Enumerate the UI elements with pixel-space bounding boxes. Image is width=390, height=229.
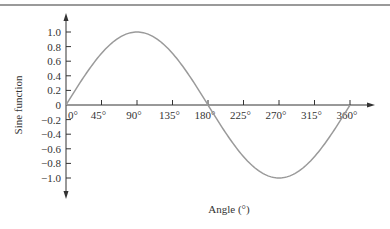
y-tick-label: 0.6	[47, 55, 61, 67]
y-tick-label: −0.6	[41, 143, 61, 155]
x-tick-label: 270°	[266, 109, 287, 121]
x-tick-label: 0°	[68, 109, 78, 121]
x-tick-label: 315°	[301, 109, 322, 121]
y-axis-up-arrow-icon	[64, 13, 69, 21]
y-tick-label: −0.2	[41, 114, 61, 126]
y-axis-down-arrow-icon	[64, 191, 69, 199]
x-axis-right-arrow-icon	[367, 103, 375, 108]
y-tick-label: 0.4	[47, 70, 61, 82]
y-tick-label: 1.0	[47, 26, 61, 38]
y-axis-title: Sine function	[12, 75, 24, 134]
y-tick-label: −0.4	[41, 128, 61, 140]
y-tick-label: −1.0	[41, 172, 61, 184]
x-ticks: 0°45°90°135°180°225°270°315°360°	[68, 100, 357, 121]
y-tick-label: −0.8	[41, 157, 61, 169]
y-tick-label: 0.8	[47, 41, 61, 53]
y-tick-label: 0.2	[47, 84, 61, 96]
sine-chart: 1.00.80.60.40.20−0.2−0.4−0.6−0.8−1.0 0°4…	[0, 0, 390, 229]
x-tick-label: 225°	[230, 109, 251, 121]
y-tick-label: 0	[56, 99, 62, 111]
x-axis	[66, 103, 375, 108]
x-tick-label: 90°	[126, 109, 141, 121]
x-axis-title: Angle (°)	[208, 203, 250, 216]
x-tick-label: 135°	[159, 109, 180, 121]
y-axis	[64, 13, 69, 199]
x-tick-label: 45°	[91, 109, 106, 121]
